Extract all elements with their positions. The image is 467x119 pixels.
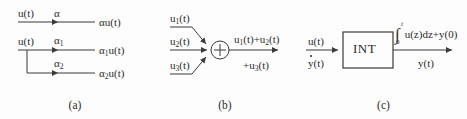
panel-a-row1-output-label: αu(t) <box>99 17 121 28</box>
panel-c-input-bottom-label: y(t) <box>308 58 324 69</box>
panel-b-output-line2: +u3(t) <box>243 60 269 71</box>
panel-a-row2-input-label: u(t) <box>18 36 34 47</box>
panel-b-input2-label: u2(t) <box>170 36 190 47</box>
panel-c-output-top-label: ∫t0u(z)dz+y(0) <box>395 24 457 41</box>
input1-diagonal <box>192 27 206 44</box>
input3-diagonal <box>192 57 206 74</box>
panel-c-input-top-label: u(t) <box>308 36 324 47</box>
panel-a-row3-output-label: α2u(t) <box>99 68 124 79</box>
panel-a-row1-gain-label: α <box>54 8 60 19</box>
panel-a-row2-gain-label: α1 <box>54 35 64 46</box>
int-block-label: INT <box>353 41 376 57</box>
panel-c-output-bottom-label: y(t) <box>418 58 434 69</box>
block-diagram-figure: u(t) α αu(t) u(t) α1 α1u(t) α2 α2u(t) (a… <box>0 0 467 119</box>
panel-a-gain-branching: u(t) α αu(t) u(t) α1 α1u(t) α2 α2u(t) (a… <box>0 0 150 119</box>
panel-a-row2-output-label: α1u(t) <box>99 45 124 56</box>
panel-c-integrator: u(t) y(t) INT ∫t0u(z)dz+y(0) y(t) (c) <box>300 0 467 119</box>
panel-a-caption: (a) <box>0 99 150 111</box>
panel-b-input3-label: u3(t) <box>170 60 190 71</box>
panel-b-caption: (b) <box>150 99 300 111</box>
panel-a-row1-input-label: u(t) <box>18 8 34 19</box>
panel-a-row3-gain-label: α2 <box>54 58 64 69</box>
panel-c-caption: (c) <box>300 99 467 111</box>
panel-b-summing-junction: u1(t) u2(t) u3(t) u1(t)+u2(t) +u3(t) (b) <box>150 0 300 119</box>
panel-b-output-line1: u1(t)+u2(t) <box>234 34 279 45</box>
panel-b-input1-label: u1(t) <box>170 13 190 24</box>
